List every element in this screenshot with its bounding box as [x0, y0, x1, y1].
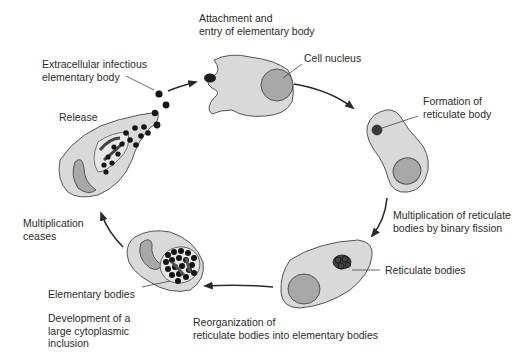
label-multiplication-reticulate: Multiplication of reticulate bodies by b… — [393, 209, 511, 234]
extracellular-body — [155, 90, 162, 97]
arrow-to-reorganization — [205, 285, 273, 287]
cell-reticulate-bodies — [281, 240, 372, 308]
label-cell-nucleus: Cell nucleus — [304, 52, 361, 65]
cell-release — [59, 90, 169, 197]
nucleus — [288, 274, 320, 304]
extracellular-body — [163, 102, 170, 109]
extracellular-body — [154, 122, 161, 129]
label-development: Development of a large cytoplasmic inclu… — [48, 312, 130, 350]
life-cycle-diagram — [0, 0, 527, 360]
label-attachment: Attachment and entry of elementary body — [199, 12, 315, 37]
arrow-to-release — [101, 213, 123, 247]
extracellular-body — [152, 110, 158, 116]
label-elementary-bodies: Elementary bodies — [48, 288, 135, 301]
reticulate-body-cluster — [333, 255, 351, 269]
reticulate-body — [372, 125, 382, 135]
label-reticulate-bodies: Reticulate bodies — [385, 264, 466, 277]
arrow-to-formation — [294, 84, 353, 108]
label-reorganization: Reorganization of reticulate bodies into… — [193, 316, 378, 341]
label-formation: Formation of reticulate body — [423, 95, 491, 120]
label-release: Release — [59, 111, 98, 124]
elementary-body-entering — [204, 74, 216, 83]
cell-formation — [367, 110, 428, 192]
label-multiplication-ceases: Multiplication ceases — [23, 217, 84, 242]
arrow-to-multiplication — [372, 198, 387, 236]
arrow-entry — [168, 82, 196, 91]
cell-attachment — [204, 55, 293, 116]
label-extracellular: Extracellular infectious elementary body — [42, 58, 147, 83]
